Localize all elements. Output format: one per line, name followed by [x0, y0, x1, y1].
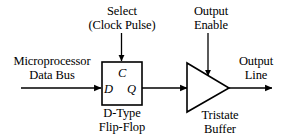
tristate-buffer-caption-line1: Tristate — [202, 108, 239, 122]
output-enable-label-line2: Enable — [194, 18, 228, 32]
select-clock-label: Select(Clock Pulse) — [76, 4, 168, 32]
output-line-label-line2: Line — [245, 68, 268, 82]
clock-pin-label: C — [118, 66, 126, 81]
select-clock-label-line1: Select — [107, 4, 137, 18]
logic-diagram-canvas: MicroprocessorData Bus Select(Clock Puls… — [0, 0, 291, 139]
tristate-buffer-caption-line2: Buffer — [204, 122, 236, 136]
input-source-label-line1: Microprocessor — [13, 54, 90, 68]
select-clock-label-line2: (Clock Pulse) — [88, 18, 155, 32]
input-source-label-line2: Data Bus — [29, 68, 74, 82]
output-line-label-line1: Output — [239, 54, 273, 68]
data-pin-label: D — [104, 82, 113, 97]
q-output-pin-label: Q — [127, 82, 136, 97]
flip-flop-caption: D-TypeFlip-Flop — [82, 106, 162, 134]
tristate-buffer-caption: TristateBuffer — [182, 108, 258, 136]
input-source-label: MicroprocessorData Bus — [6, 54, 98, 82]
flip-flop-caption-line2: Flip-Flop — [99, 120, 145, 134]
output-enable-label: OutputEnable — [176, 4, 246, 32]
output-line-label: OutputLine — [226, 54, 286, 82]
flip-flop-caption-line1: D-Type — [103, 106, 140, 120]
output-enable-label-line1: Output — [194, 4, 228, 18]
